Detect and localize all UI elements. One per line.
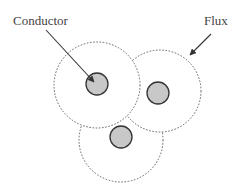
conductor-right	[147, 82, 169, 104]
flux-arrow	[190, 34, 211, 55]
flux-label: Flux	[204, 13, 228, 28]
conductor-label: Conductor	[13, 13, 69, 28]
conductor-bottom	[110, 126, 132, 148]
flux-conductor-diagram: Conductor Flux	[0, 0, 242, 189]
